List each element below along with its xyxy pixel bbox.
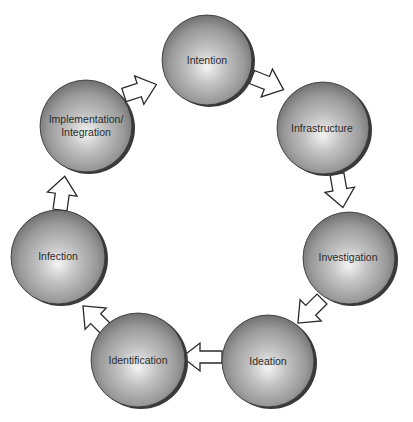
arrow-ideation-to-identification [182, 343, 222, 371]
node-implementation-integration: Implementation/ Integration [40, 80, 135, 174]
arrow-infrastructure-to-investigation [322, 171, 357, 210]
node-label-implementation-line1: Implementation/ [49, 113, 124, 125]
block-arrow-icon [322, 171, 357, 210]
block-arrow-icon [182, 343, 222, 371]
node-infrastructure: Infrastructure [277, 82, 372, 176]
node-label-investigation: Investigation [319, 251, 378, 263]
block-arrow-icon [45, 174, 79, 212]
node-label-intention: Intention [187, 54, 227, 66]
cycle-diagram: Intention Infrastructure Investigation I… [0, 0, 413, 422]
node-label-infection: Infection [38, 250, 78, 262]
arrow-infection-to-implementation [45, 174, 79, 212]
node-ideation: Ideation [222, 315, 317, 409]
node-label-implementation-line2: Integration [61, 126, 111, 138]
node-infection: Infection [11, 210, 108, 306]
node-identification: Identification [91, 313, 188, 409]
node-label-infrastructure: Infrastructure [291, 122, 353, 134]
node-investigation: Investigation [303, 212, 398, 306]
node-label-identification: Identification [109, 354, 168, 366]
node-label-ideation: Ideation [249, 355, 287, 367]
node-intention: Intention [162, 15, 255, 107]
